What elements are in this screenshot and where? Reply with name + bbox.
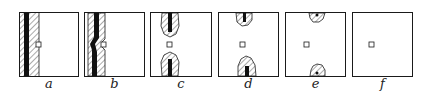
marker-square-icon [101, 42, 106, 47]
marker-square-icon [240, 42, 245, 47]
panel-f-diagram [352, 12, 413, 78]
panel-label: b [84, 76, 145, 91]
panel-label: a [19, 76, 79, 91]
marker-square-icon [369, 42, 374, 47]
marker-square-icon [167, 42, 172, 47]
panel-c-diagram [150, 12, 212, 78]
panel-d-diagram [218, 12, 279, 78]
panel-e-diagram [285, 12, 346, 78]
panel-c: c [150, 0, 212, 94]
panel-a-diagram [19, 12, 79, 78]
panel-label: c [150, 76, 212, 91]
panel-d: d [218, 0, 279, 94]
panel-label: e [285, 76, 346, 91]
panel-a: a [19, 0, 79, 94]
panel-f: f [352, 0, 413, 94]
panel-b-diagram [84, 12, 145, 78]
panel-label: d [218, 76, 279, 91]
panel-e: e [285, 0, 346, 94]
marker-square-icon [36, 42, 41, 47]
core-stripe [24, 13, 29, 76]
marker-square-icon [304, 42, 309, 47]
panel-label: f [352, 76, 413, 91]
panel-b: b [84, 0, 145, 94]
